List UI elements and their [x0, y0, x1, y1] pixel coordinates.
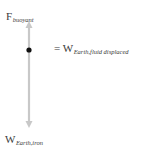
iron-weight-subscript: Earth,iron — [16, 139, 43, 146]
buoyant-force-symbol: F — [6, 10, 12, 22]
fluid-displaced-weight-label: = WEarth,fluid displaced — [54, 39, 129, 55]
buoyant-force-label: Fbuoyant — [6, 7, 34, 23]
buoyant-force-subscript: buoyant — [13, 16, 34, 23]
equals-weight-symbol: = W — [54, 42, 73, 54]
down-arrowhead-icon — [26, 121, 33, 128]
fluid-displaced-subscript: Earth,fluid displaced — [74, 48, 129, 55]
force-arrows — [26, 21, 33, 128]
iron-weight-symbol: W — [5, 133, 15, 145]
object-point-dot — [26, 47, 31, 52]
iron-weight-label: WEarth,iron — [5, 130, 43, 146]
